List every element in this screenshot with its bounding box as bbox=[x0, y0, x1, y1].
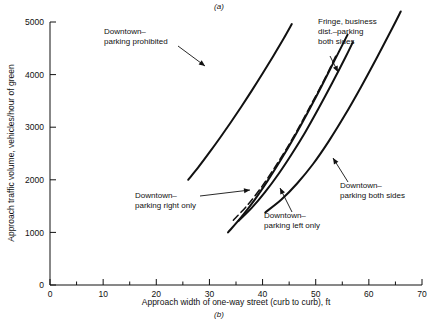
y-tick-label: 3000 bbox=[25, 122, 44, 132]
ann-parking-both-sides-arrowhead bbox=[333, 158, 338, 164]
x-axis-title: Approach width of one-way street (curb t… bbox=[142, 297, 331, 307]
y-tick-label: 4000 bbox=[25, 70, 44, 80]
y-tick-label: 5000 bbox=[25, 17, 44, 27]
y-tick-label: 1000 bbox=[25, 228, 44, 238]
x-tick-label: 0 bbox=[48, 289, 53, 299]
ann-fringe-business-label: Fringe, businessdist.–parkingboth sides bbox=[318, 17, 377, 46]
ann-parking-left-only-label: Downtown–parking left only bbox=[264, 211, 320, 230]
x-axis-ticks: 010203040506070 bbox=[48, 279, 427, 299]
traffic-volume-chart: 010203040506070 010002000300040005000 Do… bbox=[0, 0, 438, 324]
figure-container: (a) 010203040506070 01000200030004000500… bbox=[0, 0, 438, 324]
ann-parking-prohibited-arrowhead bbox=[199, 60, 205, 66]
chart-axes bbox=[50, 22, 422, 285]
x-tick-label: 10 bbox=[98, 289, 108, 299]
figure-caption-top: (a) bbox=[0, 2, 438, 11]
figure-caption-bottom: (b) bbox=[0, 310, 438, 319]
ann-parking-right-only-label: Downtown–parking right only bbox=[135, 191, 196, 210]
curve-downtown-parking-prohibited bbox=[188, 24, 292, 180]
ann-parking-prohibited-label: Downtown–parking prohibited bbox=[104, 27, 168, 46]
x-tick-label: 70 bbox=[417, 289, 427, 299]
chart-annotations: Downtown–parking prohibitedFringe, busin… bbox=[104, 17, 405, 230]
ann-parking-both-sides-label: Downtown–parking both sides bbox=[340, 181, 405, 200]
y-tick-label: 2000 bbox=[25, 175, 44, 185]
x-tick-label: 60 bbox=[364, 289, 374, 299]
y-axis-ticks: 010002000300040005000 bbox=[25, 17, 56, 290]
ann-parking-right-only-arrowhead bbox=[244, 188, 250, 193]
ann-parking-right-only-leader bbox=[200, 190, 250, 196]
y-tick-label: 0 bbox=[39, 280, 44, 290]
y-axis-title: Approach traffic volume, vehicles/hour o… bbox=[6, 64, 16, 242]
